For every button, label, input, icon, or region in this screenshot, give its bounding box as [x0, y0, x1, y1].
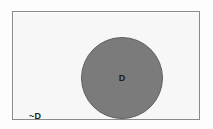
universe-rectangle: D ~D	[12, 11, 200, 120]
venn-diagram-canvas: D ~D	[0, 0, 213, 129]
set-circle-d: D	[81, 37, 163, 119]
set-circle-label: D	[82, 38, 162, 118]
universe-complement-label: ~D	[29, 112, 41, 121]
